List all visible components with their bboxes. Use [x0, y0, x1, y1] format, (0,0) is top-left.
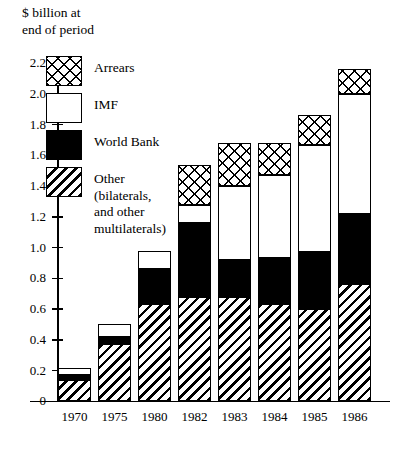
bar-segment-other — [138, 304, 171, 401]
legend-swatch-world_bank — [46, 130, 82, 160]
bar-segment-world_bank — [298, 252, 331, 309]
legend-swatch-other — [46, 167, 82, 197]
bar-segment-other — [298, 309, 331, 401]
bar-segment-imf — [178, 205, 211, 223]
bar-segment-world_bank — [138, 269, 171, 304]
bar-segment-world_bank — [58, 375, 91, 380]
bar-segment-imf — [218, 186, 251, 260]
bar-1975 — [98, 324, 131, 401]
legend-label-other: Other (bilaterals, and other multilatera… — [94, 171, 166, 237]
bar-1983 — [218, 143, 251, 401]
bar-segment-imf — [138, 251, 171, 269]
bar-1982 — [178, 165, 211, 402]
legend-swatch-arrears — [46, 56, 82, 86]
bar-1986 — [338, 69, 371, 401]
bar-segment-imf — [338, 94, 371, 214]
legend-label-imf: IMF — [94, 97, 118, 114]
bar-segment-other — [178, 297, 211, 402]
bar-segment-other — [258, 304, 291, 401]
bar-segment-arrears — [178, 165, 211, 205]
bar-1970 — [58, 368, 91, 402]
bar-segment-imf — [58, 368, 91, 376]
legend-swatch-imf — [46, 93, 82, 123]
bar-segment-imf — [98, 324, 131, 336]
bar-segment-arrears — [258, 143, 291, 175]
bar-segment-arrears — [298, 115, 331, 144]
bar-1985 — [298, 115, 331, 401]
bar-segment-imf — [258, 175, 291, 258]
bar-segment-other — [58, 380, 91, 402]
bar-segment-world_bank — [258, 258, 291, 304]
bar-1984 — [258, 143, 291, 401]
bar-segment-imf — [298, 145, 331, 253]
bar-1980 — [138, 251, 171, 402]
bar-segment-other — [98, 344, 131, 401]
bar-segment-world_bank — [218, 260, 251, 297]
bar-segment-world_bank — [338, 214, 371, 285]
bar-segment-other — [338, 284, 371, 401]
stacked-bar-chart: $ billion at end of period 00.20.40.60.8… — [0, 0, 405, 450]
bar-segment-arrears — [218, 143, 251, 186]
bar-segment-other — [218, 297, 251, 402]
bar-segment-arrears — [338, 69, 371, 94]
bar-segment-world_bank — [98, 337, 131, 345]
bar-segment-world_bank — [178, 223, 211, 297]
legend-label-world_bank: World Bank — [94, 134, 159, 151]
legend-label-arrears: Arrears — [94, 60, 134, 77]
